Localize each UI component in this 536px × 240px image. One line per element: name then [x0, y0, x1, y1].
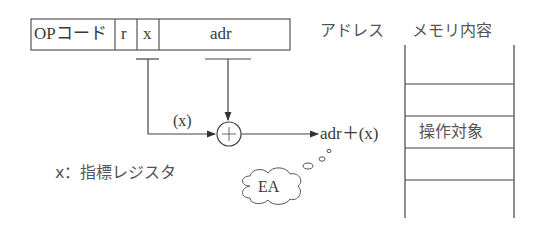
- adder-icon: [217, 122, 241, 146]
- memory-cell-operand: 操作対象: [419, 124, 483, 140]
- index-register-legend: x：指標レジスタ: [55, 165, 176, 181]
- ea-bubble-text: EA: [258, 179, 279, 195]
- address-header: アドレス: [320, 23, 384, 39]
- field-x-label: x: [143, 25, 152, 42]
- field-adr-label: adr: [210, 25, 232, 42]
- field-r-label: r: [121, 25, 127, 42]
- index-value-label: (x): [173, 113, 192, 129]
- memory-content-header: メモリ内容: [412, 23, 492, 39]
- field-op-label: OPコード: [34, 25, 107, 42]
- effective-address-label: adr＋(x): [320, 125, 379, 142]
- thought-cloud-icon: [243, 149, 332, 204]
- address-path: [205, 59, 251, 120]
